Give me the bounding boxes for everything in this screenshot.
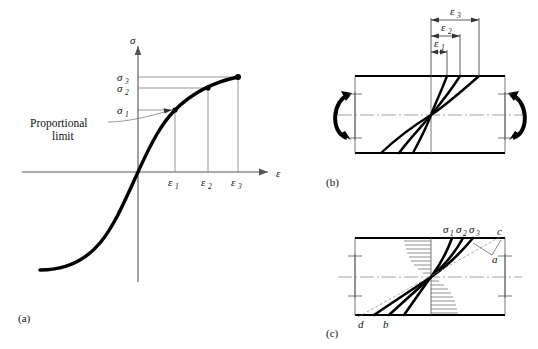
leader-to-a [473,243,492,255]
stress-curve-2 [389,238,463,315]
panel-c-stress-curves [374,238,473,315]
stress-curve-3 [374,238,473,315]
panel-a-x-axis-label: ε [276,167,281,179]
panel-b-right-torque-arrow [498,91,525,140]
stress-label-sigma3: σ [469,223,475,235]
panel-b-label: (b) [326,176,339,189]
point-label-d: d [358,318,364,330]
arrow-eps2-right [452,33,460,38]
dim-label-eps1-sub: 1 [441,43,445,52]
dim-label-eps2-sub: 2 [448,27,452,36]
arrow-eps1-left [431,50,438,55]
panel-a: σ ε σ 1 σ 2 σ 3 ε 1 ε 2 ε 3 Proportional… [18,34,281,325]
panel-b: ε 1 ε 2 ε 3 (b) [326,5,525,189]
x-tick-eps3-sub: 3 [237,182,242,191]
stress-label-sigma3-sub: 3 [475,229,480,238]
dim-label-eps3: ε [450,5,455,17]
y-tick-sigma3: σ [117,71,123,83]
panel-b-left-torque-arrow [335,91,362,140]
figure-svg: σ ε σ 1 σ 2 σ 3 ε 1 ε 2 ε 3 Proportional… [0,0,538,349]
dim-label-eps3-sub: 3 [456,11,461,20]
panel-a-x-tick-labels: ε 1 ε 2 ε 3 [168,176,242,191]
panel-c-stress-labels: σ 1 σ 2 σ 3 [443,223,480,238]
x-tick-eps3: ε [231,176,236,188]
panel-c: σ 1 σ 2 σ 3 a b c d (c) [326,223,522,340]
panel-b-deformed-lines [381,76,479,153]
proportional-limit-label-line2: limit [52,130,75,142]
panel-a-axes [22,46,268,282]
proportional-limit-label-line1: Proportional [30,117,88,130]
y-axis-arrowhead [135,46,142,55]
panel-c-side-ticks [348,254,512,298]
point-label-b: b [383,318,389,330]
figure-container: σ ε σ 1 σ 2 σ 3 ε 1 ε 2 ε 3 Proportional… [0,0,538,349]
panel-a-y-tick-labels: σ 1 σ 2 σ 3 [117,71,129,119]
point-sigma3 [235,74,241,80]
stress-label-sigma2: σ [456,223,462,235]
x-tick-eps2: ε [201,176,206,188]
panel-b-dimension-labels: ε 1 ε 2 ε 3 [434,5,461,52]
y-tick-sigma3-sub: 3 [124,77,129,86]
x-tick-eps2-sub: 2 [208,182,212,191]
panel-a-y-axis-label: σ [130,34,136,46]
y-tick-sigma2: σ [117,82,123,94]
point-label-a: a [492,253,498,265]
panel-a-projection-lines [138,77,238,172]
deformed-line-3 [381,76,479,153]
x-tick-eps1: ε [168,176,173,188]
stress-label-sigma2-sub: 2 [463,229,467,238]
panel-a-label: (a) [18,312,31,325]
stress-curve-1 [404,238,452,315]
x-tick-eps1-sub: 1 [175,182,179,191]
y-tick-sigma2-sub: 2 [125,88,129,97]
dim-label-eps1: ε [434,37,439,49]
x-axis-arrowhead [259,169,268,176]
point-label-c: c [497,225,502,237]
arrow-eps3-left [431,17,439,22]
panel-c-label: (c) [326,327,339,340]
deformed-line-2 [399,76,460,153]
stress-label-sigma1-sub: 1 [450,229,454,238]
y-tick-sigma1-sub: 1 [125,110,129,119]
arrow-eps3-right [471,17,479,22]
proportional-limit-point [172,107,177,112]
y-tick-sigma1: σ [117,104,123,116]
dim-label-eps2: ε [441,21,446,33]
stress-label-sigma1: σ [443,223,449,235]
point-sigma2 [205,85,210,90]
